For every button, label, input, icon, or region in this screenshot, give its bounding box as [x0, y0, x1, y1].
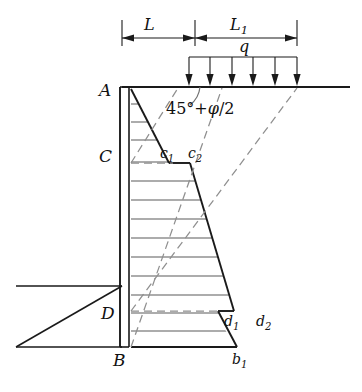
retaining-wall-diagram: L L1 q A C D B c1 c2 d1 d2 b1 45°+φ/2	[0, 0, 362, 392]
surcharge-arrow-3	[228, 74, 235, 86]
diagram-canvas	[0, 0, 362, 392]
surcharge-arrow-5	[271, 74, 278, 86]
point-label-d1: d1	[224, 314, 239, 332]
point-label-d2: d2	[256, 314, 271, 332]
dimension-label-L: L	[144, 17, 155, 33]
dim-arrow-right-start	[195, 35, 207, 42]
pressure-diagram-outline	[131, 89, 237, 347]
dimension-label-L1: L1	[230, 17, 248, 37]
dim-arrow-left-end	[183, 35, 195, 42]
point-label-c: C	[99, 148, 112, 165]
point-label-d: D	[101, 305, 115, 322]
dim-arrow-right-end	[285, 35, 297, 42]
point-label-a: A	[99, 82, 111, 99]
load-label-q: q	[239, 39, 249, 55]
surcharge-arrow-2	[206, 74, 213, 86]
wall-stem-group	[120, 87, 129, 347]
failure-angle-label: 45°+φ/2	[166, 101, 235, 117]
surcharge-arrow-1	[185, 74, 192, 86]
point-label-b: B	[113, 352, 126, 369]
dim-arrow-left-start	[122, 35, 134, 42]
surcharge-arrowheads	[185, 74, 300, 86]
surcharge-arrow-6	[293, 74, 300, 86]
point-label-c1: c1	[160, 146, 174, 164]
failure-plane-rear	[131, 88, 222, 347]
point-label-c2: c2	[188, 146, 202, 164]
pressure-edge-c2-d2	[190, 163, 234, 311]
surcharge-load-group	[189, 57, 297, 78]
surcharge-arrow-4	[249, 74, 256, 86]
point-label-b1: b1	[232, 352, 247, 370]
failure-planes-group	[131, 88, 297, 347]
